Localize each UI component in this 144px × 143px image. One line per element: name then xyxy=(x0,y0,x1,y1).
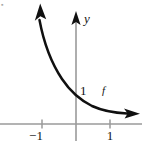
y-intercept-label: 1 xyxy=(80,83,87,98)
curve-label: f xyxy=(102,84,107,96)
corner-artifact-mark: ▪ xyxy=(1,1,4,9)
x-tick-label-one: 1 xyxy=(107,128,114,143)
x-tick-label-minus-one: −1 xyxy=(29,128,43,143)
graph-canvas: y 1 f −1 1 ▪ xyxy=(0,0,144,143)
figure-container: y 1 f −1 1 ▪ xyxy=(0,0,144,143)
curve-arrowhead-up-icon xyxy=(35,4,46,21)
exponential-curve xyxy=(40,20,128,114)
y-axis-label: y xyxy=(82,11,90,26)
